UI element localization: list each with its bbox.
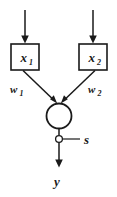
summation-node — [47, 104, 72, 129]
input-node-x1: x 1 — [11, 44, 39, 70]
output-arrow — [55, 143, 63, 168]
input-node-x1-base: x — [20, 50, 28, 65]
weight-label-w2-base: w — [88, 83, 96, 95]
input-node-x2: x 2 — [79, 44, 107, 70]
weight-label-w2-subscript: 2 — [97, 89, 102, 98]
input-node-x1-subscript: 1 — [29, 58, 33, 67]
weight-label-w2: w 2 — [88, 83, 102, 98]
input-arrow-1 — [21, 10, 29, 44]
weighted-edge-1 — [23, 71, 57, 104]
output-label-y: y — [52, 174, 60, 189]
input-arrow-2 — [89, 10, 97, 44]
input-node-x2-base: x — [88, 50, 96, 65]
neuron-diagram: x 1 x 2 w 1 w 2 — [0, 0, 117, 197]
diagram-canvas: x 1 x 2 w 1 w 2 — [0, 0, 117, 197]
weight-label-w1-subscript: 1 — [20, 89, 24, 98]
input-node-x2-subscript: 2 — [96, 58, 101, 67]
threshold-junction — [56, 136, 80, 143]
weight-label-w1: w 1 — [10, 83, 24, 98]
weight-label-w1-base: w — [10, 83, 18, 95]
threshold-label-s: s — [83, 132, 89, 147]
